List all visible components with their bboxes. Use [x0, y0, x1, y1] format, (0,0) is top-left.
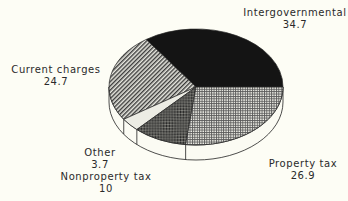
label-name: Property tax [258, 158, 348, 170]
label-value: 34.7 [240, 19, 348, 31]
pie-slice-property-tax [186, 87, 283, 145]
label-nonproperty-tax: Nonproperty tax 10 [56, 171, 156, 195]
label-name: Intergovernmental [240, 7, 348, 19]
label-name: Current charges [6, 64, 106, 76]
label-name: Nonproperty tax [56, 171, 156, 183]
label-current-charges: Current charges 24.7 [6, 64, 106, 88]
label-value: 26.9 [258, 170, 348, 182]
label-value: 10 [56, 183, 156, 195]
label-other: Other 3.7 [80, 147, 120, 171]
label-name: Other [80, 147, 120, 159]
label-property-tax: Property tax 26.9 [258, 158, 348, 182]
label-intergovernmental: Intergovernmental 34.7 [240, 7, 348, 31]
pie [109, 29, 283, 160]
label-value: 24.7 [6, 76, 106, 88]
label-value: 3.7 [80, 159, 120, 171]
